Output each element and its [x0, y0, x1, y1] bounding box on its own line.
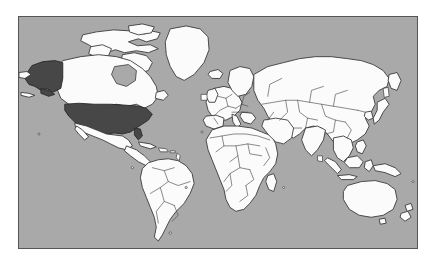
island-dot-falklands	[169, 232, 171, 234]
landmass-new-zealand-north	[405, 203, 413, 211]
island-dot-atlantic	[185, 186, 187, 188]
landmass-british-isles	[206, 88, 218, 102]
landmass-sakhalin	[383, 87, 389, 97]
island-dot-hawaii	[38, 133, 40, 135]
landmass-sri-lanka	[318, 156, 323, 162]
island-dot-galapagos	[131, 167, 133, 169]
island-dot-fiji	[412, 181, 414, 183]
landmass-ellesmere	[128, 24, 154, 35]
island-dot-canary	[201, 131, 203, 133]
landmass-ireland	[201, 94, 207, 100]
world-map-figure	[18, 16, 418, 249]
landmass-puerto-rico	[170, 151, 175, 153]
world-map-svg	[19, 17, 417, 248]
island-dot-mauritius	[283, 187, 285, 189]
landmass-tasmania	[379, 218, 386, 224]
